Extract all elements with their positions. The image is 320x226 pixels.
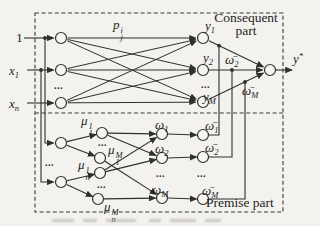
node-consequent-in-x1 — [56, 65, 67, 76]
label-y-star: y* — [293, 52, 303, 65]
caption-smudge — [52, 219, 267, 224]
node-consequent-in-xn — [56, 98, 67, 109]
label-w1: ω1 — [155, 118, 168, 131]
edge-b-munM — [67, 185, 93, 197]
label-mu11: μ11 — [81, 114, 93, 136]
edge — [68, 102, 196, 103]
node-munM — [93, 194, 104, 205]
edge-munM-wM — [104, 198, 156, 199]
ellipsis-premise-in: ... — [45, 158, 54, 168]
consequent-bipartite-edges — [67, 38, 196, 103]
edge-mu1M-wM — [105, 161, 157, 194]
ellipsis-consequent-in: ... — [54, 81, 63, 91]
input-junction-dots — [39, 36, 47, 72]
label-nwM-consequent: ω̄M — [242, 84, 258, 97]
ellipsis-nw: ... — [197, 169, 206, 179]
consequent-part-title: Consequent part — [209, 11, 283, 37]
edge-mu11-w1 — [108, 133, 156, 134]
edge-w2-nw2 — [168, 157, 197, 158]
node-y2 — [198, 65, 209, 76]
label-yM: yM — [203, 90, 216, 103]
junction-dot — [217, 44, 221, 48]
node-y1 — [198, 33, 209, 44]
fuzzy-network-figure: 1 x1 xn pij y1 y2 ... yM y* Consequent p… — [0, 0, 320, 226]
label-nwM: ω̄M — [202, 184, 218, 197]
node-consequent-in-1 — [56, 33, 67, 44]
node-premise-in-1 — [56, 138, 67, 149]
junction-dot — [39, 68, 43, 72]
label-mun1: μ1n — [78, 158, 90, 180]
label-wM: ωM — [152, 183, 168, 196]
node-premise-in-2 — [56, 177, 67, 188]
label-w2: ω2 — [155, 142, 168, 155]
node-mun1 — [95, 168, 106, 179]
ellipsis-w: ... — [156, 169, 165, 179]
label-nw2: ω̄2 — [205, 141, 218, 154]
ellipsis-mu-upper: ... — [98, 138, 107, 148]
edge-w1-nw1 — [168, 134, 197, 135]
node-output-sum — [265, 65, 276, 76]
ellipsis-mu-lower: ... — [97, 180, 106, 190]
label-mu1M: μM1 — [108, 143, 123, 165]
label-nw2-consequent: ω̄2 — [225, 53, 238, 66]
edge-a-mu1M — [67, 145, 95, 156]
label-y2: y2 — [203, 51, 213, 64]
junction-dot — [43, 36, 47, 40]
input-label-xn: xn — [9, 97, 19, 110]
input-label-x1: x1 — [9, 64, 19, 77]
parameter-label-p: pij — [113, 18, 123, 40]
edge-wM-nwM — [168, 198, 197, 199]
node-mu1M — [95, 153, 106, 164]
input-label-1: 1 — [16, 31, 23, 45]
edge-drop-to-premise-1 — [45, 38, 54, 143]
label-nw1: ω̄1 — [205, 119, 218, 132]
